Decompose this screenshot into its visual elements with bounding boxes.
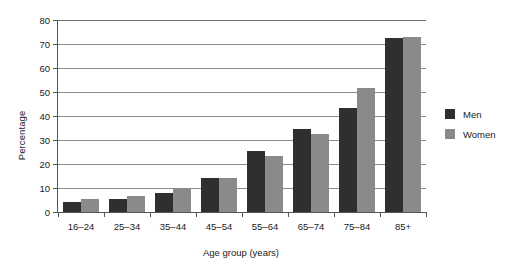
y-tick-label: 50 [39,87,50,98]
plot-area: 01020304050607080 16–2425–3435–4445–5455… [57,20,426,213]
y-tick-label: 0 [45,207,50,218]
x-tick-label: 25–34 [114,221,140,232]
bar-men [293,129,311,212]
x-tick-mark [58,212,59,217]
legend-item-women: Women [445,124,496,144]
x-tick-mark [150,212,151,217]
y-tick-label: 40 [39,111,50,122]
bar-women [403,37,421,212]
y-tick-label: 80 [39,15,50,26]
y-tick-label: 60 [39,63,50,74]
y-axis-title: Percentage [14,0,30,271]
bar-group [150,20,196,212]
legend-label: Men [463,109,481,120]
x-tick-label: 65–74 [298,221,324,232]
bar-group [334,20,380,212]
x-tick-label: 85+ [395,221,411,232]
bar-women [127,196,145,212]
bar-men [339,108,357,212]
bar-group [242,20,288,212]
bar-chart: Percentage 01020304050607080 16–2425–343… [0,0,529,271]
bar-women [173,189,191,212]
x-tick-label: 75–84 [344,221,370,232]
bar-men [201,178,219,212]
legend: MenWomen [445,104,496,144]
legend-label: Women [463,129,496,140]
x-tick-mark [104,212,105,217]
x-tick-label: 35–44 [160,221,186,232]
y-tick-label: 20 [39,159,50,170]
bar-men [385,38,403,212]
y-tick-label: 70 [39,39,50,50]
legend-item-men: Men [445,104,496,124]
bar-group [104,20,150,212]
bar-women [311,134,329,212]
bar-group [58,20,104,212]
bars-layer [58,20,426,212]
x-tick-mark [242,212,243,217]
x-tick-mark [288,212,289,217]
y-tick-label: 10 [39,183,50,194]
bar-group [380,20,426,212]
x-tick-mark [380,212,381,217]
legend-swatch-icon [445,129,455,139]
x-tick-label: 45–54 [206,221,232,232]
bar-women [357,88,375,212]
bar-group [196,20,242,212]
legend-swatch-icon [445,109,455,119]
bar-men [63,202,81,212]
x-axis-title: Age group (years) [57,247,425,258]
bar-women [219,178,237,212]
bar-men [247,151,265,212]
bar-group [288,20,334,212]
x-tick-label: 55–64 [252,221,278,232]
y-tick-label: 30 [39,135,50,146]
x-tick-mark [334,212,335,217]
bar-women [265,156,283,212]
bar-men [155,193,173,212]
x-tick-mark [196,212,197,217]
x-tick-label: 16–24 [68,221,94,232]
bar-men [109,199,127,212]
bar-women [81,199,99,212]
x-tick-mark [426,212,427,217]
